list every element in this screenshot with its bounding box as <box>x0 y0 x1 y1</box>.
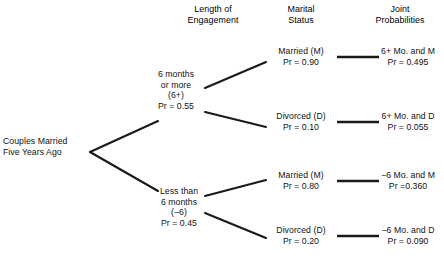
node-divorced-upper: Divorced (D) Pr = 0.10 <box>276 111 325 132</box>
joint-probability: Pr = 0.090 <box>382 236 435 247</box>
joint-label: −6 Mo. and M <box>381 170 435 181</box>
root-node-line1: Couples Married <box>3 136 68 147</box>
node-divorced-lower: Divorced (D) Pr = 0.20 <box>276 225 325 246</box>
node-line2: or more <box>158 80 194 91</box>
node-probability: Pr = 0.10 <box>276 122 325 133</box>
column-header-length-of-engagement: Length of Engagement <box>188 4 239 26</box>
node-label: Divorced (D) <box>276 225 325 236</box>
node-probability: Pr = 0.45 <box>160 218 198 229</box>
node-label: Divorced (D) <box>276 111 325 122</box>
node-married-lower: Married (M) Pr = 0.80 <box>278 170 323 191</box>
node-line2: 6 months <box>160 197 198 208</box>
node-line1: Less than <box>160 186 198 197</box>
joint-label: 6+ Mo. and D <box>382 111 435 122</box>
column-header-line1: Joint <box>376 4 425 15</box>
branch-root-to-less-than-six <box>90 152 158 191</box>
branch-root-to-six-plus <box>90 121 158 152</box>
node-married-upper: Married (M) Pr = 0.90 <box>278 46 323 67</box>
root-node-couples-married: Couples Married Five Years Ago <box>3 136 68 157</box>
joint-six-plus-and-divorced: 6+ Mo. and D Pr = 0.055 <box>382 111 435 132</box>
column-header-marital-status: Marital Status <box>288 4 315 26</box>
branch-six-plus-to-married <box>205 62 266 88</box>
column-header-line1: Marital <box>288 4 315 15</box>
node-probability: Pr = 0.55 <box>158 101 194 112</box>
column-header-line1: Length of <box>188 4 239 15</box>
node-line1: 6 months <box>158 69 194 80</box>
column-header-line2: Probabilities <box>376 15 425 26</box>
joint-minus-six-and-divorced: −6 Mo. and D Pr = 0.090 <box>382 225 435 246</box>
node-label: Married (M) <box>278 46 323 57</box>
column-header-line2: Status <box>288 15 315 26</box>
root-node-line2: Five Years Ago <box>3 147 68 158</box>
branch-less-six-to-divorced <box>205 213 266 238</box>
probability-tree-figure: Length of Engagement Marital Status Join… <box>0 0 444 258</box>
branch-less-six-to-married <box>205 180 266 196</box>
node-probability: Pr = 0.80 <box>278 181 323 192</box>
node-probability: Pr = 0.20 <box>276 236 325 247</box>
joint-label: 6+ Mo. and M <box>381 46 435 57</box>
node-probability: Pr = 0.90 <box>278 57 323 68</box>
branch-six-plus-to-divorced <box>205 112 266 127</box>
joint-probability: Pr = 0.495 <box>381 57 435 68</box>
column-header-line2: Engagement <box>188 15 239 26</box>
node-less-than-six-months: Less than 6 months (−6) Pr = 0.45 <box>160 186 198 228</box>
node-code: (6+) <box>158 90 194 101</box>
joint-probability: Pr = 0.055 <box>382 122 435 133</box>
node-code: (−6) <box>160 207 198 218</box>
joint-minus-six-and-married: −6 Mo. and M Pr =0.360 <box>381 170 435 191</box>
tree-branch-lines <box>0 0 444 258</box>
joint-six-plus-and-married: 6+ Mo. and M Pr = 0.495 <box>381 46 435 67</box>
column-header-joint-probabilities: Joint Probabilities <box>376 4 425 26</box>
node-six-months-or-more: 6 months or more (6+) Pr = 0.55 <box>158 69 194 111</box>
joint-probability: Pr =0.360 <box>381 181 435 192</box>
joint-label: −6 Mo. and D <box>382 225 435 236</box>
node-label: Married (M) <box>278 170 323 181</box>
